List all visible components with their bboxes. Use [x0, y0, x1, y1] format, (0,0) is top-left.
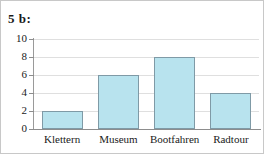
y-axis-tick-label: 10 [16, 33, 27, 44]
y-axis-tick-label: 4 [22, 87, 28, 98]
y-axis-tick [29, 93, 34, 94]
y-axis-tick-label: 8 [22, 51, 28, 62]
y-axis-tick-label: 0 [22, 123, 28, 134]
gridline [34, 57, 259, 58]
bar [42, 111, 83, 129]
y-axis-tick-label: 6 [22, 69, 28, 80]
y-axis-tick [29, 39, 34, 40]
x-axis-category-label: Klettern [34, 133, 90, 145]
chart-title: 5 b: [8, 11, 31, 27]
gridline [34, 75, 259, 76]
x-axis-category-label: Radtour [203, 133, 259, 145]
y-axis-tick [29, 111, 34, 112]
bar [98, 75, 139, 129]
y-axis-tick [29, 129, 34, 130]
bar [154, 57, 195, 129]
x-axis-category-label: Bootfahren [147, 133, 203, 145]
y-axis-tick [29, 75, 34, 76]
x-axis-category-label: Museum [90, 133, 146, 145]
gridline [34, 39, 259, 40]
chart-screenshot: 5 b: 0246810 KletternMuseumBootfahrenRad… [0, 0, 264, 154]
plot-area [34, 39, 259, 129]
x-axis-line [29, 129, 261, 130]
y-axis-tick [29, 57, 34, 58]
y-axis-tick-label: 2 [22, 105, 28, 116]
bar [210, 93, 251, 129]
